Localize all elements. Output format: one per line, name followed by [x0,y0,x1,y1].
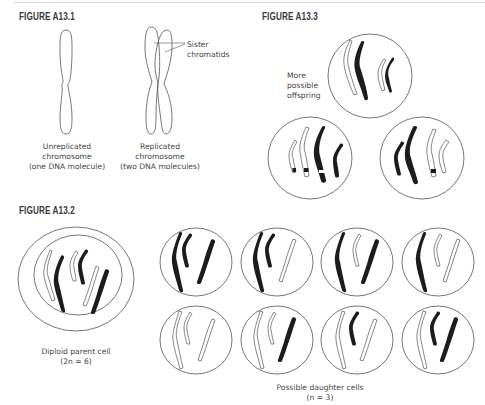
unreplicated-chromosome [60,30,72,134]
offspring-label-line-3: offspring [287,91,321,101]
offspring-cell-top [328,34,412,118]
offspring-label-line-2: possible [287,81,321,91]
daughter-cell-r1c2 [241,228,313,296]
replicated-caption-line-1: Replicated [115,142,205,152]
daughter-cell-r1c4 [402,228,474,296]
diagram-artwork [0,0,485,405]
replicated-caption-line-2: chromosome [115,152,205,162]
daughter-cell-r2c4 [402,306,474,374]
daughter-cell-r2c3 [321,306,393,374]
daughter-cells-caption: Possible daughter cells (n = 3) [260,383,380,403]
daughter-cell-r1c3 [321,228,393,296]
offspring-cell-bottom-left [268,117,352,199]
daughter-cell-r2c2 [241,306,313,374]
parent-caption-line-1: Diploid parent cell [26,347,126,357]
daughter-caption-line-1: Possible daughter cells [260,383,380,393]
sister-label-line-2: chromatids [187,50,230,60]
parent-cell-caption: Diploid parent cell (2n = 6) [26,347,126,367]
diploid-parent-cell [18,227,134,331]
offspring-label-line-1: More [287,71,321,81]
daughter-cell-r2c1 [160,306,232,374]
replicated-caption-line-3: (two DNA molecules) [115,162,205,172]
unreplicated-caption-line-2: chromosome [22,152,112,162]
daughter-cells-grid [160,228,474,374]
daughter-caption-line-2: (n = 3) [260,393,380,403]
parent-caption-line-2: (2n = 6) [26,357,126,367]
daughter-cell-r1c1 [160,228,232,296]
replicated-caption: Replicated chromosome (two DNA molecules… [115,142,205,172]
sister-label-line-1: Sister [187,40,230,50]
replicated-chromosome [145,27,185,134]
unreplicated-caption-line-1: Unreplicated [22,142,112,152]
sister-chromatids-label: Sister chromatids [187,40,230,60]
offspring-cell-bottom-right [380,117,464,199]
more-offspring-label: More possible offspring [287,71,321,101]
unreplicated-caption: Unreplicated chromosome (one DNA molecul… [22,142,112,172]
unreplicated-caption-line-3: (one DNA molecule) [22,162,112,172]
